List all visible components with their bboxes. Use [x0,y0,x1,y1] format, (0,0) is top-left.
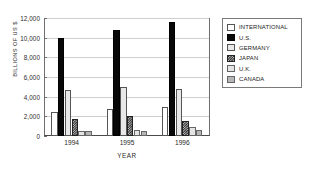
legend: INTERNATIONALU.S.GERMANYJAPANU.K.CANADA [222,18,302,88]
y-axis-tick-labels: 02,0004,0006,0008,00010,00012,000 [4,18,40,136]
legend-item-label: U.S. [239,35,251,41]
legend-swatch-icon [227,24,235,31]
bar [196,130,202,136]
legend-swatch-icon [227,65,235,72]
y-axis-tick-label: 10,000 [6,34,40,41]
bar [85,131,91,136]
bar [162,107,168,137]
x-axis-tick-label: 1994 [64,139,79,146]
legend-item-label: GERMANY [239,45,270,51]
bar [113,30,119,136]
legend-item[interactable]: CANADA [227,74,298,84]
legend-swatch-icon [227,44,235,51]
bar-group [107,18,148,136]
bar-group [51,18,92,136]
bar [134,130,140,136]
y-axis-tick-label: 8,000 [6,54,40,61]
y-axis-tick-label: 2,000 [6,113,40,120]
bar [127,116,133,136]
bar [120,87,126,136]
legend-swatch-icon [227,55,235,62]
legend-item[interactable]: JAPAN [227,53,298,63]
y-axis-tick-label: 4,000 [6,93,40,100]
bar [107,109,113,136]
legend-item[interactable]: U.S. [227,32,298,42]
x-axis-tick-labels: 199419951996 [44,139,210,151]
bar-group [162,18,203,136]
bar [176,89,182,136]
legend-item[interactable]: INTERNATIONAL [227,22,298,32]
legend-swatch-icon [227,76,235,83]
x-axis-tick-label: 1996 [175,139,190,146]
y-axis-tick-label: 6,000 [6,74,40,81]
legend-item[interactable]: U.K. [227,64,298,74]
bar [141,131,147,137]
legend-swatch-icon [227,34,235,41]
bar-series-container [44,18,210,136]
bar [72,119,78,136]
x-axis-tick-label: 1995 [120,139,135,146]
legend-item-label: U.K. [239,66,251,72]
chart-figure: BILLIONS OF US $ 02,0004,0006,0008,00010… [0,0,309,180]
legend-item-label: CANADA [239,76,264,82]
legend-item[interactable]: GERMANY [227,43,298,53]
y-axis-tick-label: 12,000 [6,15,40,22]
bar [169,22,175,136]
bar [189,127,195,136]
legend-item-label: INTERNATIONAL [239,24,288,30]
bar [51,112,57,136]
x-axis-title: YEAR [44,152,210,159]
bar [78,131,84,136]
y-axis-tick-label: 0 [6,133,40,140]
bar [58,38,64,136]
legend-item-label: JAPAN [239,55,258,61]
bar [182,121,188,136]
y-axis-tick [44,136,47,137]
plot-area [44,18,210,136]
bar [65,90,71,136]
